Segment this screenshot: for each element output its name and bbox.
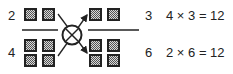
right-denominator: 6: [145, 46, 152, 59]
equation-top: 4 × 3 = 12: [166, 9, 225, 22]
right-denominator-squares: [90, 40, 119, 66]
left-denominator: 4: [8, 46, 15, 59]
right-numerator: 3: [145, 9, 152, 22]
left-denominator-squares: [25, 40, 54, 66]
equation-bottom: 2 × 6 = 12: [166, 46, 225, 59]
circled-times-icon: [63, 26, 82, 45]
right-numerator-squares: [90, 9, 119, 20]
left-numerator: 2: [8, 9, 15, 22]
left-numerator-squares: [25, 9, 54, 20]
